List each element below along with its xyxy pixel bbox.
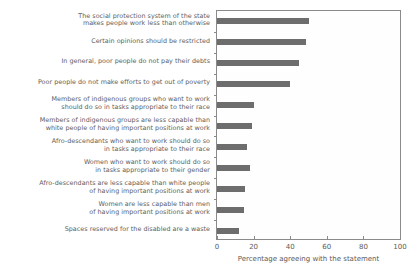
category-label-row: Members of indigenous groups who want to… — [0, 94, 214, 115]
x-axis-tick-label: 40 — [286, 243, 295, 251]
category-label: Members of indigenous groups who want to… — [51, 96, 210, 111]
category-label-row: Poor people do not make efforts to get o… — [0, 73, 214, 94]
y-axis-tick — [214, 95, 217, 96]
category-label: Women are less capable than men of havin… — [89, 201, 210, 216]
y-axis-tick — [214, 199, 217, 200]
y-axis-tick — [214, 178, 217, 179]
y-axis-tick — [214, 136, 217, 137]
category-label: The social protection system of the stat… — [78, 13, 210, 28]
bar — [217, 102, 254, 108]
x-axis-tick — [327, 236, 328, 239]
x-axis-tick — [254, 236, 255, 239]
category-label: Women who want to work should do so in t… — [84, 159, 210, 174]
category-label: In general, poor people do not pay their… — [61, 58, 210, 66]
category-label-row: The social protection system of the stat… — [0, 10, 214, 31]
bar-chart: The social protection system of the stat… — [0, 0, 416, 273]
plot-area — [216, 10, 401, 240]
category-label: Spaces reserved for the disabled are a w… — [65, 226, 210, 234]
x-axis-tick-label: 20 — [249, 243, 258, 251]
y-axis-tick — [214, 157, 217, 158]
bar — [217, 165, 250, 171]
x-axis-tick-label: 100 — [393, 243, 406, 251]
category-label-row: Members of indigenous groups are less ca… — [0, 115, 214, 136]
bar — [217, 186, 245, 192]
x-axis-tick-label: 80 — [359, 243, 368, 251]
bar — [217, 39, 306, 45]
y-axis-tick — [214, 220, 217, 221]
x-axis-tick — [217, 236, 218, 239]
category-label: Members of indigenous groups are less ca… — [40, 117, 210, 132]
bar — [217, 228, 239, 234]
x-axis-title: Percentage agreeing with the statement — [216, 255, 401, 263]
bars-layer — [217, 11, 400, 239]
category-label-row: In general, poor people do not pay their… — [0, 52, 214, 73]
category-label: Afro-descendants who want to work should… — [52, 138, 210, 153]
category-label: Certain opinions should be restricted — [91, 38, 210, 46]
bar — [217, 123, 252, 129]
category-label-row: Afro-descendants who want to work should… — [0, 135, 214, 156]
x-axis-tick — [290, 236, 291, 239]
x-axis-tick-label: 0 — [215, 243, 219, 251]
y-axis-tick — [214, 53, 217, 54]
category-label-row: Women who want to work should do so in t… — [0, 156, 214, 177]
category-label-row: Women are less capable than men of havin… — [0, 198, 214, 219]
bar — [217, 18, 309, 24]
y-axis-tick — [214, 74, 217, 75]
bar — [217, 207, 244, 213]
category-label-row: Spaces reserved for the disabled are a w… — [0, 219, 214, 240]
category-label: Afro-descendants are less capable than w… — [39, 180, 210, 195]
bar — [217, 144, 247, 150]
category-label: Poor people do not make efforts to get o… — [38, 79, 210, 87]
y-axis-tick — [214, 116, 217, 117]
category-label-row: Certain opinions should be restricted — [0, 31, 214, 52]
bar — [217, 60, 299, 66]
x-axis-tick — [363, 236, 364, 239]
x-axis-tick — [400, 236, 401, 239]
bar — [217, 81, 290, 87]
x-axis-tick-label: 60 — [322, 243, 331, 251]
y-axis-tick — [214, 32, 217, 33]
category-label-row: Afro-descendants are less capable than w… — [0, 177, 214, 198]
category-labels: The social protection system of the stat… — [0, 10, 214, 240]
